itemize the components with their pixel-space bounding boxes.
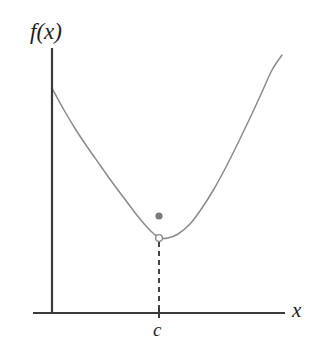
x-tick-label-c: c xyxy=(153,320,161,339)
function-curve xyxy=(52,55,282,239)
open-point-marker xyxy=(156,235,163,242)
y-axis-label: f(x) xyxy=(30,20,62,43)
function-graph-figure: f(x) x c xyxy=(0,0,317,363)
filled-point-marker xyxy=(155,212,162,219)
x-axis-label: x xyxy=(292,300,301,321)
plot-canvas xyxy=(0,0,317,363)
